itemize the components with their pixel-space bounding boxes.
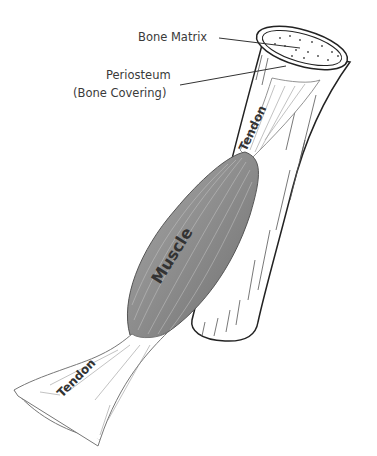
periosteum-sublabel: (Bone Covering): [73, 86, 166, 100]
diagram-canvas: Tendon Muscle Tendon: [0, 0, 377, 456]
lower-tendon: [14, 332, 168, 446]
anatomy-diagram: Tendon Muscle Tendon Bone Matrix Periost…: [0, 0, 377, 456]
periosteum-label: Periosteum: [106, 68, 171, 82]
bone-matrix-label: Bone Matrix: [138, 30, 207, 44]
